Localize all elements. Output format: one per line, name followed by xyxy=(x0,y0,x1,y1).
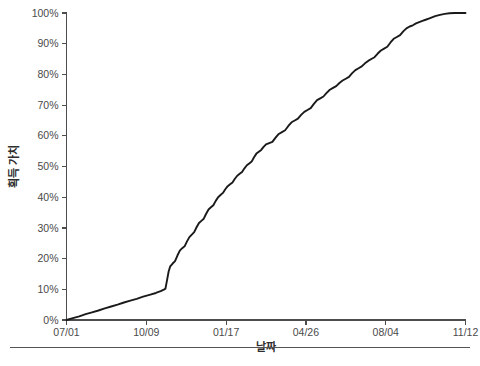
svg-text:10%: 10% xyxy=(37,283,58,295)
svg-text:70%: 70% xyxy=(37,99,58,111)
svg-text:01/17: 01/17 xyxy=(213,326,239,338)
svg-text:60%: 60% xyxy=(37,129,58,141)
svg-text:20%: 20% xyxy=(37,252,58,264)
y-axis-title: 획득 가치 xyxy=(7,145,20,188)
svg-text:11/12: 11/12 xyxy=(453,326,479,338)
footer-divider xyxy=(10,347,470,348)
svg-text:04/26: 04/26 xyxy=(293,326,319,338)
svg-text:07/01: 07/01 xyxy=(53,326,79,338)
svg-text:0%: 0% xyxy=(43,314,58,326)
chart-plot-svg: 0%10%20%30%40%50%60%70%80%90%100% 07/011… xyxy=(0,0,480,366)
earned-value-chart: 0%10%20%30%40%50%60%70%80%90%100% 07/011… xyxy=(0,0,480,366)
earned-value-curve xyxy=(67,13,466,320)
svg-text:10/09: 10/09 xyxy=(133,326,159,338)
y-axis-tick-labels: 0%10%20%30%40%50%60%70%80%90%100% xyxy=(32,7,59,326)
svg-text:40%: 40% xyxy=(37,191,58,203)
x-axis-ticks xyxy=(67,320,466,325)
svg-text:08/04: 08/04 xyxy=(373,326,399,338)
svg-text:80%: 80% xyxy=(37,68,58,80)
svg-text:30%: 30% xyxy=(37,222,58,234)
y-axis-ticks xyxy=(62,13,67,320)
svg-text:50%: 50% xyxy=(37,160,58,172)
x-axis-tick-labels: 07/0110/0901/1704/2608/0411/12 xyxy=(53,326,478,338)
svg-text:90%: 90% xyxy=(37,37,58,49)
svg-text:100%: 100% xyxy=(32,7,59,19)
